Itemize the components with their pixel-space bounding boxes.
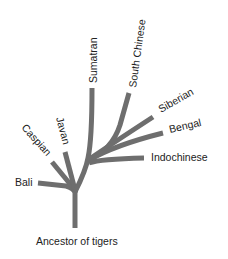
label-caspian: Caspian — [20, 121, 55, 158]
branches — [38, 88, 163, 228]
label-bengal: Bengal — [168, 116, 203, 135]
label-javan: Javan — [54, 115, 73, 145]
label-bali: Bali — [15, 176, 33, 188]
label-root: Ancestor of tigers — [36, 235, 118, 247]
label-indochinese: Indochinese — [151, 151, 208, 163]
tiger-phylogenetic-tree: Ancestor of tigers Bali Caspian Javan Su… — [0, 0, 228, 259]
label-sumatran: Sumatran — [87, 37, 99, 83]
branch-sumatran — [75, 88, 92, 192]
label-siberian: Siberian — [156, 85, 196, 115]
label-south-chinese: South Chinese — [126, 18, 147, 88]
branch-indochinese — [89, 158, 144, 163]
labels: Ancestor of tigers Bali Caspian Javan Su… — [15, 18, 208, 247]
